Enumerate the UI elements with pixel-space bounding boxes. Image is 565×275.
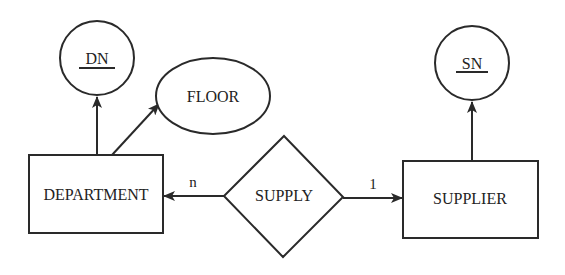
entity-supplier: SUPPLIER bbox=[403, 161, 538, 238]
cardinality-n: n bbox=[189, 174, 197, 190]
cardinality-1: 1 bbox=[369, 176, 377, 192]
er-diagram: DN FLOOR SN DEPARTMENT SUPPLIER SUPPLY n… bbox=[0, 0, 565, 275]
attribute-dn: DN bbox=[60, 21, 134, 95]
attribute-floor-label: FLOOR bbox=[187, 88, 240, 105]
attribute-sn-label: SN bbox=[462, 55, 483, 72]
relationship-supply: SUPPLY bbox=[224, 136, 343, 257]
attribute-sn: SN bbox=[435, 26, 509, 100]
entity-supplier-label: SUPPLIER bbox=[433, 190, 507, 207]
attribute-dn-label: DN bbox=[85, 50, 109, 67]
edge-department-floor bbox=[112, 104, 159, 155]
attribute-floor: FLOOR bbox=[156, 58, 270, 134]
entity-department: DEPARTMENT bbox=[29, 155, 163, 233]
entity-department-label: DEPARTMENT bbox=[43, 186, 148, 203]
relationship-supply-label: SUPPLY bbox=[255, 187, 313, 204]
